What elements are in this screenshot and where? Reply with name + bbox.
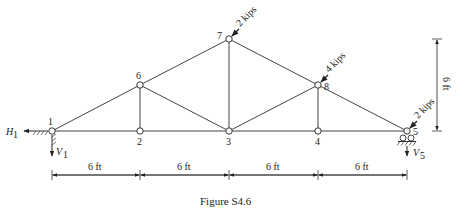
svg-text:2 kips: 2 kips	[412, 95, 437, 120]
svg-text:4 kips: 4 kips	[323, 49, 348, 74]
load-node-8: 4 kips	[321, 49, 348, 82]
svg-text:6 ft: 6 ft	[266, 161, 280, 172]
svg-text:1: 1	[63, 149, 68, 160]
reaction-v5: V 5	[407, 146, 425, 161]
svg-text:2: 2	[137, 136, 142, 147]
member-6-7	[140, 39, 229, 85]
node-2	[137, 128, 143, 134]
member-7-8	[229, 39, 318, 85]
svg-text:1: 1	[48, 116, 53, 127]
member-8-5	[318, 85, 407, 131]
span-dimensions: 6 ft 6 ft 6 ft 6 ft	[52, 161, 407, 180]
svg-text:7: 7	[217, 30, 222, 41]
node-7	[226, 36, 232, 42]
svg-text:4: 4	[315, 136, 320, 147]
height-dimension: 6 ft	[432, 39, 452, 131]
load-node-5: 2 kips	[410, 95, 437, 128]
svg-text:2 kips: 2 kips	[234, 3, 259, 28]
node-8	[315, 82, 321, 88]
truss-members	[52, 39, 407, 131]
member-3-8	[229, 85, 318, 131]
svg-text:8: 8	[324, 81, 329, 92]
svg-text:6 ft: 6 ft	[177, 161, 191, 172]
node-3	[226, 128, 232, 134]
figure-caption: Figure S4.6	[200, 195, 252, 207]
node-4	[315, 128, 321, 134]
member-1-6	[52, 85, 140, 131]
svg-text:5: 5	[413, 126, 418, 137]
reaction-v1: V 1	[52, 146, 68, 160]
node-1	[49, 128, 55, 134]
node-5	[404, 128, 410, 134]
svg-text:6: 6	[136, 70, 141, 81]
svg-text:3: 3	[226, 136, 231, 147]
svg-text:6 ft: 6 ft	[441, 77, 452, 91]
svg-text:1: 1	[13, 129, 18, 140]
load-node-7: 2 kips	[232, 3, 259, 36]
svg-text:6 ft: 6 ft	[88, 161, 102, 172]
member-6-3	[140, 85, 229, 131]
svg-text:5: 5	[420, 150, 425, 161]
svg-text:6 ft: 6 ft	[355, 161, 369, 172]
node-6	[137, 82, 143, 88]
truss-diagram: H 1 V 1 V 5 2 kips 4 kips 2 kips 1 2	[0, 0, 469, 212]
reaction-h1: H 1	[5, 126, 34, 140]
